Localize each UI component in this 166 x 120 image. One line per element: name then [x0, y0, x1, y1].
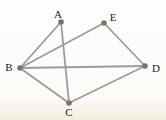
node-A — [58, 19, 64, 25]
node-label-B: B — [5, 61, 12, 73]
edge-B-C — [20, 68, 69, 103]
edge-A-B — [20, 22, 61, 68]
edge-A-C — [61, 22, 69, 103]
node-label-D: D — [152, 62, 160, 74]
node-D — [142, 63, 148, 69]
node-label-C: C — [65, 106, 72, 118]
graph-diagram: ABCDE — [0, 0, 166, 120]
edge-B-D — [20, 66, 145, 68]
edge-D-E — [104, 23, 145, 66]
graph-svg: ABCDE — [0, 0, 166, 120]
node-E — [101, 20, 107, 26]
node-label-E: E — [110, 11, 117, 23]
node-C — [66, 100, 72, 106]
node-label-A: A — [54, 8, 62, 20]
edge-C-D — [69, 66, 145, 103]
node-B — [17, 65, 23, 71]
